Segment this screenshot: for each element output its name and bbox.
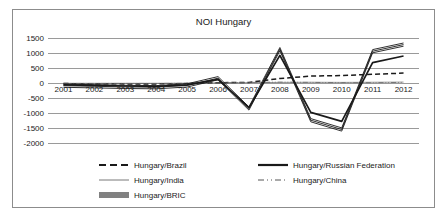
- legend-item-hungary-russian-federation[interactable]: Hungary/Russian Federation: [258, 160, 395, 170]
- legend-swatch-dash-dot-dot-icon: [258, 175, 288, 185]
- chart-title: NOI Hungary: [13, 16, 434, 27]
- legend-swatch-thin-solid-icon: [99, 175, 129, 185]
- series-line: [63, 45, 403, 130]
- y-axis-tick-label: -500: [28, 94, 44, 103]
- legend-label: Hungary/Brazil: [134, 161, 186, 170]
- legend-item-hungary-china[interactable]: Hungary/China: [258, 175, 346, 185]
- legend-swatch-dashed-icon: [99, 160, 129, 170]
- y-axis-tick-label: 1500: [26, 34, 44, 43]
- y-axis-tick-label: -1500: [24, 124, 44, 133]
- y-axis-tick-label: 1000: [26, 49, 44, 58]
- legend-label: Hungary/India: [134, 176, 184, 185]
- y-axis-tick-label: -1000: [24, 109, 44, 118]
- legend-label: Hungary/BRIC: [134, 191, 186, 200]
- legend-swatch-thick-double-icon: [99, 190, 129, 200]
- y-axis-tick-label: 0: [40, 79, 44, 88]
- y-axis-tick-label: -2000: [24, 139, 44, 148]
- series-line: [63, 46, 403, 131]
- legend-swatch-thick-solid-icon: [258, 160, 288, 170]
- plot-area: 150010005000-500-1000-1500-2000 20012002…: [48, 38, 419, 143]
- gridline: [48, 143, 419, 144]
- chart-frame: NOI Hungary 150010005000-500-1000-1500-2…: [12, 9, 435, 208]
- legend-item-hungary-india[interactable]: Hungary/India: [99, 175, 184, 185]
- legend-label: Hungary/Russian Federation: [293, 161, 395, 170]
- chart-legend: Hungary/Brazil Hungary/India Hungary/BRI…: [13, 158, 434, 210]
- legend-item-hungary-brazil[interactable]: Hungary/Brazil: [99, 160, 186, 170]
- legend-label: Hungary/China: [293, 176, 346, 185]
- legend-item-hungary-bric[interactable]: Hungary/BRIC: [99, 190, 186, 200]
- series-line: [63, 43, 403, 128]
- series-lines: [48, 38, 419, 143]
- y-axis-tick-label: 500: [31, 64, 44, 73]
